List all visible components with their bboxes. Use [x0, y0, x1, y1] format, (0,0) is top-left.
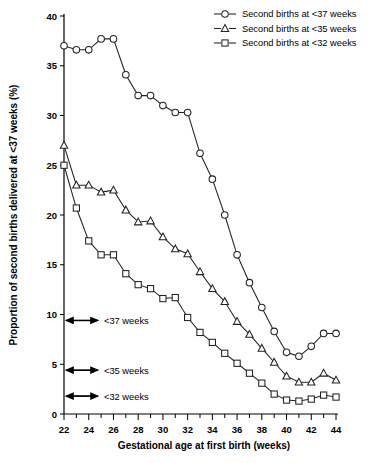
x-axis-tick-label: 28	[133, 424, 144, 435]
data-point-circle	[160, 102, 167, 109]
data-point-circle	[320, 330, 327, 337]
x-axis-tick-label: 44	[331, 424, 342, 435]
legend-label-1: Second births at <35 weeks	[242, 24, 357, 34]
data-point-circle	[271, 328, 278, 335]
data-point-square	[185, 314, 191, 320]
data-point-square	[61, 162, 67, 168]
data-point-square	[86, 238, 92, 244]
data-point-circle	[246, 279, 253, 286]
data-point-circle	[135, 92, 142, 99]
data-point-square	[123, 271, 129, 277]
y-axis-tick-label: 40	[46, 11, 57, 22]
x-axis-tick-label: 34	[207, 424, 218, 435]
x-axis-tick-label: 36	[232, 424, 243, 435]
data-point-triangle	[147, 217, 154, 224]
data-point-triangle	[60, 141, 67, 148]
annotation-label-0: <37 weeks	[104, 316, 149, 326]
data-point-circle	[259, 304, 266, 311]
data-point-triangle	[122, 206, 129, 213]
data-point-circle	[221, 212, 228, 219]
data-point-square	[271, 391, 277, 397]
y-axis-tick-label: 15	[46, 259, 57, 270]
x-axis-tick-label: 38	[257, 424, 268, 435]
data-point-square	[73, 205, 79, 211]
data-point-circle	[234, 252, 241, 259]
data-point-square	[246, 370, 252, 376]
data-point-square	[321, 392, 327, 398]
data-point-circle	[209, 176, 216, 183]
line-chart: 0510152025303540222426283032343638404244…	[0, 0, 374, 463]
data-point-square	[209, 339, 215, 345]
data-point-square	[283, 397, 289, 403]
data-point-circle	[85, 47, 92, 54]
annotation-label-2: <32 weeks	[104, 392, 149, 402]
data-point-square	[308, 396, 314, 402]
data-point-circle	[61, 43, 68, 50]
legend-label-0: Second births at <37 weeks	[242, 9, 357, 19]
data-point-square	[296, 398, 302, 404]
y-axis-tick-label: 30	[46, 110, 57, 121]
x-axis-tick-label: 40	[281, 424, 292, 435]
legend-label-2: Second births at <32 weeks	[242, 38, 357, 48]
y-axis-title: Proportion of second births delivered at…	[8, 85, 19, 346]
y-axis-tick-label: 25	[46, 160, 57, 171]
data-point-circle	[73, 47, 80, 54]
data-point-triangle	[332, 376, 339, 383]
x-axis-tick-label: 22	[59, 424, 70, 435]
legend-marker-circle	[222, 11, 229, 18]
data-point-square	[110, 252, 116, 258]
chart-figure: 0510152025303540222426283032343638404244…	[0, 0, 374, 463]
data-point-circle	[123, 71, 130, 78]
data-point-circle	[296, 353, 303, 360]
y-axis-tick-label: 10	[46, 309, 57, 320]
x-axis-tick-label: 30	[158, 424, 169, 435]
data-point-circle	[308, 343, 315, 350]
y-axis-tick-label: 5	[52, 359, 58, 370]
data-point-triangle	[110, 186, 117, 193]
data-point-circle	[98, 36, 105, 43]
x-axis-title: Gestational age at first birth (weeks)	[118, 440, 290, 451]
data-point-square	[147, 286, 153, 292]
data-point-triangle	[320, 369, 327, 376]
data-point-square	[98, 252, 104, 258]
legend-marker-triangle	[221, 25, 228, 32]
data-point-circle	[110, 36, 117, 43]
data-point-square	[333, 394, 339, 400]
y-axis-tick-label: 20	[46, 210, 57, 221]
data-point-circle	[172, 109, 179, 116]
y-axis-tick-label: 35	[46, 60, 57, 71]
data-point-square	[222, 350, 228, 356]
data-point-square	[259, 380, 265, 386]
data-point-circle	[333, 330, 340, 337]
data-point-square	[197, 329, 203, 335]
x-axis-tick-label: 42	[306, 424, 317, 435]
y-axis-tick-label: 0	[52, 409, 57, 420]
x-axis-tick-label: 26	[108, 424, 119, 435]
series-line-triangle	[64, 145, 336, 382]
x-axis-tick-label: 24	[83, 424, 94, 435]
data-point-circle	[147, 92, 154, 99]
legend-marker-square	[222, 40, 228, 46]
series-line-circle	[64, 39, 336, 356]
data-point-triangle	[233, 318, 240, 325]
x-axis-tick-label: 32	[182, 424, 193, 435]
data-point-square	[172, 294, 178, 300]
data-point-square	[234, 360, 240, 366]
annotation-label-1: <35 weeks	[104, 366, 149, 376]
data-point-circle	[197, 150, 204, 157]
data-point-square	[135, 282, 141, 288]
data-point-circle	[184, 109, 191, 116]
data-point-square	[160, 295, 166, 301]
data-point-circle	[283, 349, 290, 356]
